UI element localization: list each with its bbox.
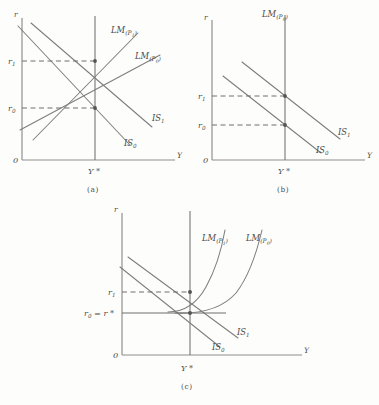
- panel-c-equilibrium-upper: [188, 290, 192, 294]
- panel-a-curve-lm-p1: [33, 33, 138, 140]
- panel-a-equilibrium-upper: [93, 59, 97, 63]
- panel-c-tick-ystar: Y *: [181, 363, 193, 373]
- panel-a: r Y 0 r1 r0 Y * LM(P1) LM(P0) IS1 IS0 (a…: [0, 0, 190, 200]
- panel-b-origin-label: 0: [203, 155, 208, 165]
- panel-c-tick-r0-rstar: r0 = r *: [84, 308, 114, 319]
- panel-b-tick-r1: r1: [198, 91, 205, 102]
- panel-c-tick-r1: r1: [108, 287, 115, 298]
- panel-b-caption: (b): [277, 185, 289, 194]
- panel-a-tick-r0: r0: [8, 103, 16, 114]
- panel-b-curve-is-1: [242, 62, 340, 139]
- panel-a-tick-r1: r1: [8, 56, 15, 67]
- panel-a-label-is-0: IS0: [123, 138, 137, 149]
- panel-a-label-lm-p1: LM(P1): [110, 25, 138, 38]
- panel-b-curve-is-0: [223, 76, 321, 153]
- panel-c-equilibrium-trap: [188, 311, 192, 315]
- panel-b-equilibrium-upper: [283, 94, 287, 98]
- panel-a-curve-is-1: [31, 23, 152, 127]
- panel-a-x-axis-label: Y: [177, 151, 183, 160]
- is-lm-figure: r Y 0 r1 r0 Y * LM(P1) LM(P0) IS1 IS0 (a…: [0, 0, 379, 405]
- panel-b-y-axis-label: r: [204, 13, 208, 22]
- panel-a-curve-is-0: [18, 26, 130, 145]
- panel-c-label-is-1: IS1: [236, 327, 250, 338]
- panel-a-curve-lm-p0: [20, 55, 160, 130]
- panel-a-caption: (a): [87, 185, 99, 194]
- panel-a-y-axis-label: r: [14, 10, 18, 19]
- panel-b-label-is-0: IS0: [315, 145, 329, 156]
- panel-c-curve-is-1: [128, 257, 238, 338]
- panel-b-tick-ystar: Y *: [278, 166, 290, 176]
- panel-a-origin-label: 0: [13, 155, 18, 165]
- panel-c-curve-is-0: [120, 267, 220, 347]
- panel-c-x-axis-label: Y: [304, 346, 310, 355]
- panel-a-label-is-1: IS1: [151, 113, 165, 124]
- panel-b-equilibrium-lower: [283, 123, 287, 127]
- panel-b-x-axis-label: Y: [367, 151, 373, 160]
- panel-c: r Y 0 r1 r0 = r * Y * LM(P1) LM(P0) IS1 …: [80, 195, 379, 405]
- panel-c-origin-label: 0: [113, 350, 118, 360]
- panel-c-caption: (c): [181, 382, 193, 391]
- panel-b-label-is-1: IS1: [337, 127, 351, 138]
- panel-b: r Y 0 r1 r0 Y * LM(P0) IS1 IS0 (b): [190, 0, 379, 200]
- panel-a-equilibrium-lower: [93, 106, 97, 110]
- panel-c-label-is-0: IS0: [211, 342, 225, 353]
- panel-b-tick-r0: r0: [198, 120, 206, 131]
- panel-c-y-axis-label: r: [114, 205, 118, 214]
- panel-a-tick-ystar: Y *: [88, 166, 100, 176]
